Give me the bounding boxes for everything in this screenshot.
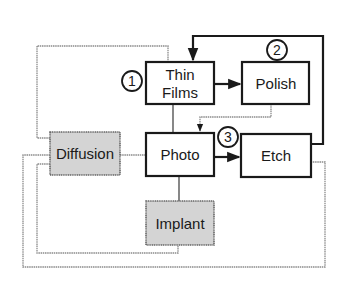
box-polish[interactable]: Polish [242, 62, 309, 104]
diffusion-label: Diffusion [56, 145, 114, 162]
photo-label: Photo [160, 146, 199, 163]
marker-3-label: 3 [224, 129, 232, 145]
thin-films-label-2: Films [162, 84, 198, 101]
box-thin-films[interactable]: Thin Films [146, 62, 214, 104]
box-etch[interactable]: Etch [241, 134, 311, 177]
implant-label: Implant [155, 215, 205, 232]
etch-label: Etch [261, 147, 291, 164]
marker-2: 2 [267, 40, 287, 60]
marker-1: 1 [122, 71, 142, 91]
box-photo[interactable]: Photo [146, 133, 214, 176]
box-diffusion[interactable]: Diffusion [50, 132, 120, 175]
polish-label: Polish [256, 75, 297, 92]
marker-1-label: 1 [128, 73, 136, 89]
edge-polish-photo [200, 104, 271, 131]
marker-2-label: 2 [273, 42, 281, 58]
process-flow-diagram: Thin Films Polish Photo Etch Diffusion I… [0, 0, 347, 290]
thin-films-label-1: Thin [165, 66, 194, 83]
marker-3: 3 [218, 127, 238, 147]
box-implant[interactable]: Implant [146, 201, 214, 245]
